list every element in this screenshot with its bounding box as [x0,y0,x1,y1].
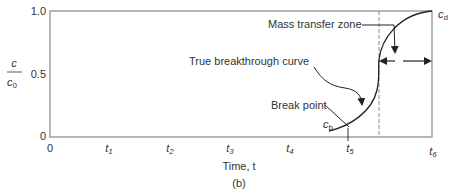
y-axis-label: c c0 [7,57,22,90]
svg-text:c0: c0 [7,76,18,90]
mass-transfer-zone-label: Mass transfer zone [268,18,362,30]
svg-text:t4: t4 [286,142,294,156]
true-breakthrough-curve-label: True breakthrough curve [189,55,309,67]
svg-text:t6: t6 [429,145,437,159]
cb-label: cb [323,118,334,132]
figure-caption: (b) [232,177,245,189]
ytick-0: 0 [40,130,46,142]
svg-text:0: 0 [47,142,53,154]
ytick-0-5: 0.5 [31,68,46,80]
break-point-label: Break point [271,99,327,111]
svg-text:t1: t1 [105,142,113,156]
x-tick-labels: 0 t1 t2 t3 t4 t5 t6 [47,142,437,159]
ytick-1: 1.0 [31,5,46,17]
svg-text:t3: t3 [226,142,234,156]
cd-label: cd [438,8,448,22]
breakthrough-chart: 1.0 0.5 0 c c0 0 t1 t2 t3 t4 t5 t6 Time,… [0,0,457,194]
svg-text:t2: t2 [166,142,174,156]
svg-text:t5: t5 [346,142,354,156]
svg-text:c: c [11,57,17,69]
x-axis-label: Time, t [222,160,255,172]
plot-frame [50,11,432,137]
